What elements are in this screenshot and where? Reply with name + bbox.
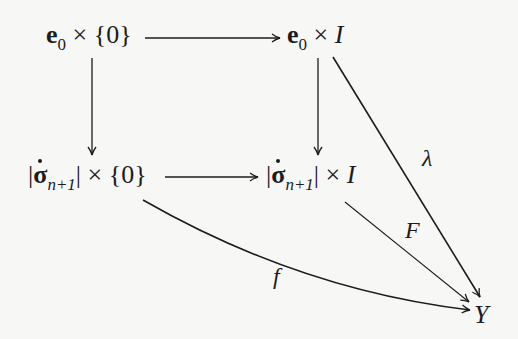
node-subscript: n+1 xyxy=(285,175,313,194)
node-subscript: n+1 xyxy=(47,175,75,194)
node-set: {0} xyxy=(94,20,132,49)
node-set: {0} xyxy=(109,160,147,189)
node-sigma-times-zero: |σn+1| × {0} xyxy=(28,162,147,188)
node-subscript: 0 xyxy=(299,35,308,54)
sigma-dot-symbol: σ xyxy=(33,160,47,189)
label-f: f xyxy=(273,264,280,288)
times-symbol: × xyxy=(326,160,341,189)
label-F: F xyxy=(405,218,420,242)
label-lambda: λ xyxy=(422,146,432,170)
node-e0-times-zero: e0 × {0} xyxy=(46,22,132,48)
abs-bar-right: | xyxy=(314,160,319,189)
node-Y: Y xyxy=(474,302,488,328)
node-interval: I xyxy=(335,20,344,49)
node-interval: I xyxy=(347,160,356,189)
node-subscript: 0 xyxy=(58,35,67,54)
node-base: e xyxy=(287,20,299,49)
arrow-f xyxy=(143,200,470,310)
node-sigma-times-I: |σn+1| × I xyxy=(266,162,355,188)
times-symbol: × xyxy=(73,20,88,49)
times-symbol: × xyxy=(88,160,103,189)
sigma-dot-symbol: σ xyxy=(271,160,285,189)
node-base: e xyxy=(46,20,58,49)
abs-bar-right: | xyxy=(76,160,81,189)
node-e0-times-I: e0 × I xyxy=(287,22,343,48)
times-symbol: × xyxy=(314,20,329,49)
